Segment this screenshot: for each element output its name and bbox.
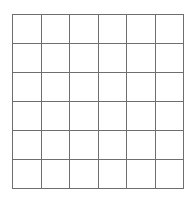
grid-cell[interactable]: [127, 131, 156, 160]
page-canvas: [0, 0, 195, 200]
table-row: [13, 44, 184, 73]
grid-body: [13, 15, 184, 189]
grid-cell[interactable]: [155, 160, 184, 189]
grid-table: [12, 14, 184, 189]
grid-cell[interactable]: [98, 73, 127, 102]
grid-cell[interactable]: [70, 131, 99, 160]
grid-cell[interactable]: [155, 73, 184, 102]
grid-cell[interactable]: [41, 44, 70, 73]
grid-cell[interactable]: [98, 131, 127, 160]
grid-cell[interactable]: [155, 15, 184, 44]
grid-cell[interactable]: [13, 102, 42, 131]
grid-cell[interactable]: [155, 131, 184, 160]
grid-cell[interactable]: [127, 160, 156, 189]
table-row: [13, 102, 184, 131]
grid-cell[interactable]: [41, 15, 70, 44]
grid-cell[interactable]: [70, 73, 99, 102]
table-row: [13, 15, 184, 44]
grid-cell[interactable]: [13, 160, 42, 189]
grid-cell[interactable]: [127, 102, 156, 131]
grid-cell[interactable]: [155, 102, 184, 131]
table-row: [13, 73, 184, 102]
grid-cell[interactable]: [127, 15, 156, 44]
grid-cell[interactable]: [98, 102, 127, 131]
grid-cell[interactable]: [13, 131, 42, 160]
grid-figure: [12, 14, 184, 189]
table-row: [13, 131, 184, 160]
grid-cell[interactable]: [13, 44, 42, 73]
grid-cell[interactable]: [41, 102, 70, 131]
grid-cell[interactable]: [70, 102, 99, 131]
grid-cell[interactable]: [41, 131, 70, 160]
grid-cell[interactable]: [70, 44, 99, 73]
grid-cell[interactable]: [13, 73, 42, 102]
grid-cell[interactable]: [98, 160, 127, 189]
grid-cell[interactable]: [70, 15, 99, 44]
grid-cell[interactable]: [13, 15, 42, 44]
table-row: [13, 160, 184, 189]
grid-cell[interactable]: [98, 15, 127, 44]
grid-cell[interactable]: [98, 44, 127, 73]
grid-cell[interactable]: [127, 44, 156, 73]
grid-cell[interactable]: [70, 160, 99, 189]
grid-cell[interactable]: [41, 73, 70, 102]
grid-cell[interactable]: [155, 44, 184, 73]
grid-cell[interactable]: [127, 73, 156, 102]
grid-cell[interactable]: [41, 160, 70, 189]
